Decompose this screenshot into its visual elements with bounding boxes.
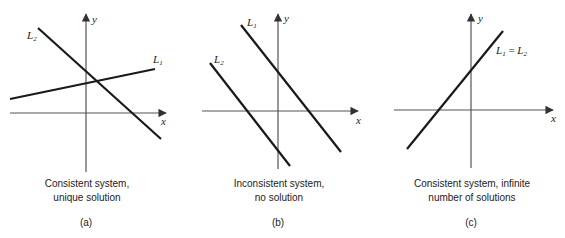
panel-b-y-label: y [283, 12, 289, 24]
panel-c-x-label: x [550, 112, 556, 124]
panel-a-l2-label: L2 [26, 29, 37, 43]
panel-c-line-label: L1 = L2 [495, 44, 527, 58]
panel-b-l1-label: L1 [246, 16, 257, 30]
panel-b-graph: x y L1 L2 [202, 12, 361, 169]
panel-c-graph: x y L1 = L2 [394, 12, 556, 168]
panel-c-line-l1-l2 [407, 31, 503, 149]
panel-a-caption-line1: Consistent system, [45, 177, 129, 191]
panel-b-l2-label: L2 [213, 53, 224, 67]
panel-a-tag: (a) [80, 217, 92, 228]
panel-b-caption: Inconsistent system, no solution [234, 177, 325, 205]
panel-b-caption-line2: no solution [234, 191, 325, 205]
panel-b-tag: (b) [272, 217, 284, 228]
panel-c-tag: (c) [465, 217, 477, 228]
panel-a-line-l2 [38, 28, 161, 139]
panel-a-graph: x y L1 L2 [10, 13, 166, 172]
panel-a-line-l1 [10, 69, 155, 99]
panel-a-l1-label: L1 [152, 53, 163, 67]
panel-a-x-label: x [160, 115, 166, 127]
panel-b-x-label: x [355, 114, 361, 126]
panel-c-caption-line2: number of solutions [414, 191, 530, 205]
panel-a-caption: Consistent system, unique solution [45, 177, 129, 205]
panel-c-y-label: y [477, 12, 483, 24]
panel-c-caption: Consistent system, infinite number of so… [414, 177, 530, 205]
panel-a-caption-line2: unique solution [45, 191, 129, 205]
panel-a-y-label: y [91, 13, 97, 25]
panel-b-caption-line1: Inconsistent system, [234, 177, 325, 191]
panel-c-caption-line1: Consistent system, infinite [414, 177, 530, 191]
panel-b-line-l1 [241, 25, 341, 152]
